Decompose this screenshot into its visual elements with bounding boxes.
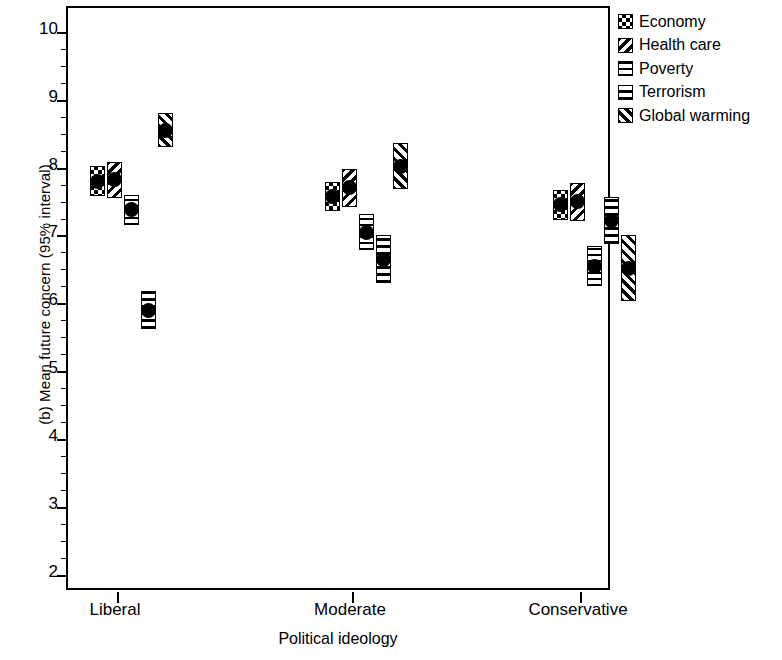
y-tick-major	[57, 371, 68, 373]
y-tick-minor	[61, 83, 68, 84]
y-tick-major	[57, 32, 68, 34]
y-tick-minor	[61, 252, 68, 253]
legend-label: Global warming	[639, 107, 750, 125]
y-tick-major	[57, 100, 68, 102]
mean-point	[124, 202, 139, 217]
y-tick-minor	[61, 185, 68, 186]
mean-point	[393, 159, 408, 174]
legend-swatch-icon	[618, 61, 633, 76]
chart-legend: EconomyHealth carePovertyTerrorismGlobal…	[618, 10, 782, 128]
mean-point	[158, 123, 173, 138]
y-tick-label: 7	[18, 223, 58, 240]
y-tick-minor	[61, 337, 68, 338]
mean-point	[325, 189, 340, 204]
y-tick-minor	[61, 541, 68, 542]
mean-point	[359, 225, 374, 240]
mean-point	[604, 213, 619, 228]
legend-item: Poverty	[618, 57, 782, 81]
mean-point	[376, 252, 391, 267]
y-tick-label: 6	[18, 291, 58, 308]
y-tick-major	[57, 235, 68, 237]
legend-label: Terrorism	[639, 83, 706, 101]
y-tick-label: 5	[18, 359, 58, 376]
y-tick-minor	[61, 151, 68, 152]
y-tick-minor	[61, 66, 68, 67]
y-tick-minor	[61, 117, 68, 118]
y-tick-major	[57, 303, 68, 305]
y-tick-minor	[61, 202, 68, 203]
y-tick-minor	[61, 524, 68, 525]
y-tick-minor	[61, 354, 68, 355]
x-tick-label: Conservative	[498, 600, 658, 620]
y-tick-minor	[61, 405, 68, 406]
y-tick-label: 10	[18, 20, 58, 37]
x-axis-title: Political ideology	[66, 630, 610, 648]
y-tick-minor	[61, 473, 68, 474]
y-tick-minor	[61, 558, 68, 559]
mean-point	[621, 261, 636, 276]
chart-figure: (b) Mean future concern (95% interval) 2…	[0, 0, 782, 660]
legend-item: Global warming	[618, 104, 782, 128]
y-tick-minor	[61, 490, 68, 491]
y-tick-major	[57, 168, 68, 170]
y-tick-minor	[61, 456, 68, 457]
mean-point	[342, 180, 357, 195]
y-tick-minor	[61, 49, 68, 50]
y-tick-minor	[61, 388, 68, 389]
legend-item: Health care	[618, 34, 782, 58]
y-tick-minor	[61, 320, 68, 321]
mean-point	[553, 197, 568, 212]
y-tick-label: 3	[18, 495, 58, 512]
y-tick-minor	[61, 269, 68, 270]
plot-area	[66, 6, 610, 590]
mean-point	[90, 174, 105, 189]
y-tick-minor	[61, 422, 68, 423]
y-tick-major	[57, 439, 68, 441]
legend-item: Economy	[618, 10, 782, 34]
y-tick-label: 4	[18, 427, 58, 444]
legend-swatch-icon	[618, 38, 633, 53]
mean-point	[570, 194, 585, 209]
y-tick-minor	[61, 219, 68, 220]
y-tick-major	[57, 507, 68, 509]
legend-label: Health care	[639, 36, 721, 54]
x-tick-label: Moderate	[270, 600, 430, 620]
y-tick-label: 8	[18, 156, 58, 173]
legend-swatch-icon	[618, 14, 633, 29]
mean-point	[587, 259, 602, 274]
mean-point	[107, 172, 122, 187]
legend-item: Terrorism	[618, 81, 782, 105]
legend-label: Poverty	[639, 60, 693, 78]
y-tick-minor	[61, 286, 68, 287]
y-tick-label: 2	[18, 563, 58, 580]
legend-swatch-icon	[618, 108, 633, 123]
legend-swatch-icon	[618, 85, 633, 100]
legend-label: Economy	[639, 13, 706, 31]
y-tick-label: 9	[18, 88, 58, 105]
y-tick-major	[57, 575, 68, 577]
x-tick-label: Liberal	[35, 600, 195, 620]
y-tick-minor	[61, 134, 68, 135]
mean-point	[141, 303, 156, 318]
